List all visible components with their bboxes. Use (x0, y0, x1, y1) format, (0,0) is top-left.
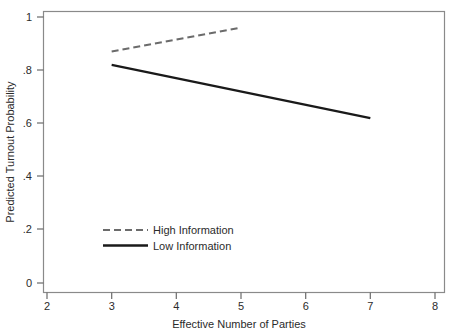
x-tick-label: 6 (303, 300, 309, 312)
y-tick-label: .6 (23, 117, 32, 129)
y-tick-label: .2 (23, 223, 32, 235)
turnout-probability-line-chart: 1 .8 .6 .4 .2 0 2 3 4 5 6 7 8 Effecti (0, 0, 452, 332)
x-tick-label: 8 (432, 300, 438, 312)
legend-label-low-information: Low Information (153, 240, 231, 252)
y-tick-label: 0 (26, 277, 32, 289)
x-tick-label: 3 (109, 300, 115, 312)
y-axis-title: Predicted Turnout Probability (4, 81, 16, 223)
x-tick-label: 5 (238, 300, 244, 312)
chart-background (0, 0, 452, 332)
legend-label-high-information: High Information (153, 224, 234, 236)
x-tick-label: 7 (367, 300, 373, 312)
y-tick-label: .4 (23, 170, 32, 182)
y-tick-label: .8 (23, 64, 32, 76)
x-tick-label: 4 (173, 300, 179, 312)
chart-figure: 1 .8 .6 .4 .2 0 2 3 4 5 6 7 8 Effecti (0, 0, 452, 332)
y-tick-label: 1 (26, 11, 32, 23)
x-axis-title: Effective Number of Parties (172, 318, 306, 330)
x-tick-label: 2 (44, 300, 50, 312)
